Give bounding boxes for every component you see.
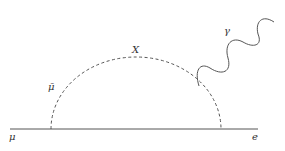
label-antimuon: μ̄ (48, 81, 55, 92)
label-boson-x: X (131, 44, 140, 55)
label-photon: γ (224, 25, 230, 36)
label-electron-out: e (252, 131, 258, 142)
photon-wavy-line (197, 19, 274, 86)
feynman-diagram: μ e μ̄ X γ (0, 0, 285, 151)
boson-loop-arc (51, 57, 221, 129)
label-muon-in: μ (9, 131, 16, 142)
